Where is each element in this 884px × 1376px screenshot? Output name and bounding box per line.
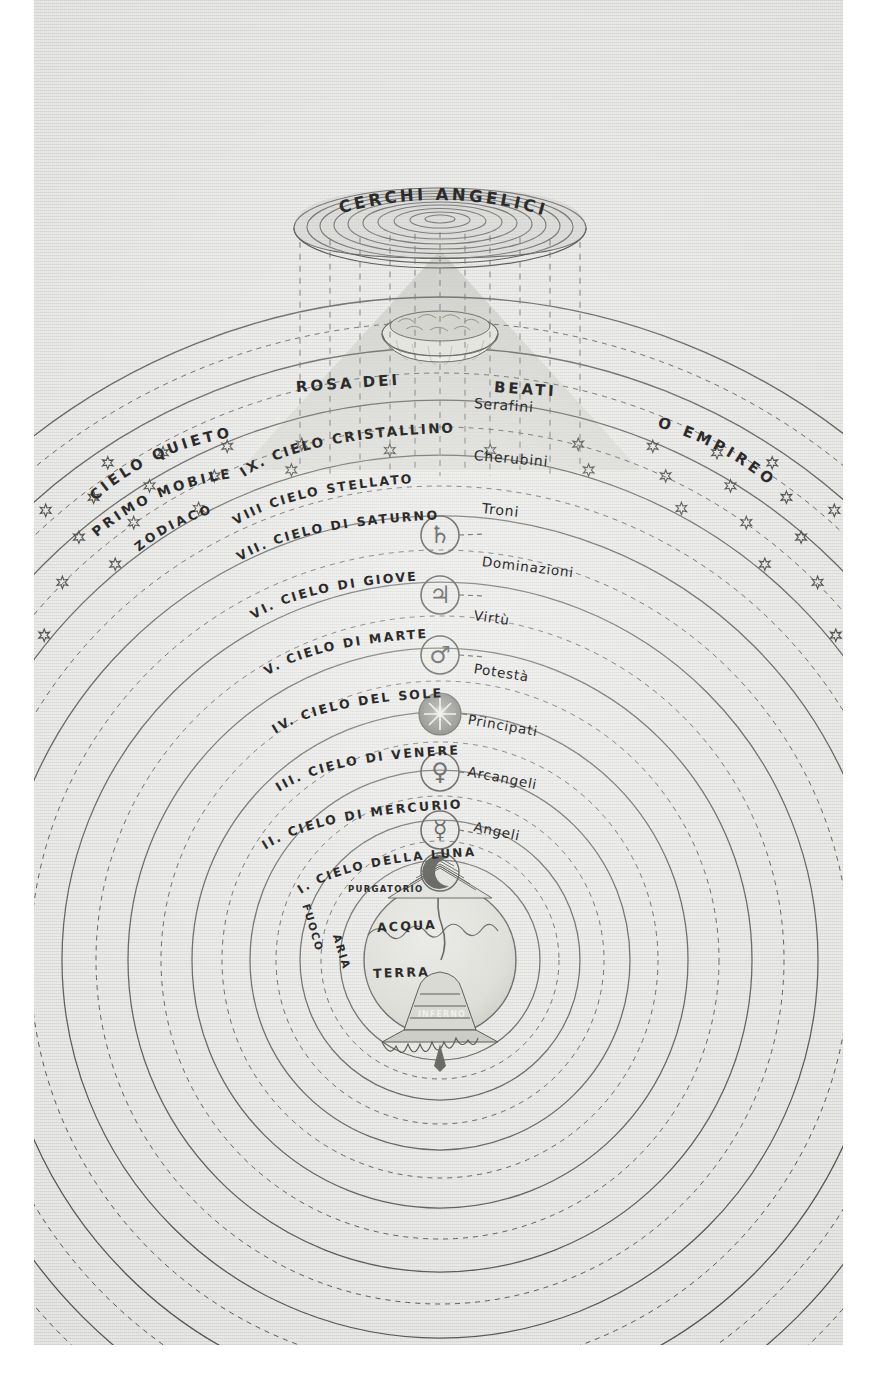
heaven-label-luna: I. CIELO DELLA LUNA — [294, 848, 480, 922]
heaven-label-text: I. CIELO DELLA LUNA — [295, 845, 477, 897]
heaven-label-text: IX. CIELO CRISTALLINO — [237, 419, 456, 479]
heaven-label-text: VII. CIELO DI SATURNO — [234, 507, 440, 564]
svg-text:V. CIELO DI MARTE: V. CIELO DI MARTE — [261, 626, 429, 678]
heaven-label-text: IV. CIELO DEL SOLE — [269, 685, 444, 736]
star-icon — [74, 531, 85, 543]
svg-text:IV. CIELO DEL SOLE: IV. CIELO DEL SOLE — [269, 685, 444, 736]
heaven-label-text: V. CIELO DI MARTE — [261, 626, 429, 678]
empireo-text: O EMPIREO — [656, 413, 780, 490]
svg-text:I. CIELO DELLA LUNA: I. CIELO DELLA LUNA — [295, 845, 477, 897]
star-icon — [796, 531, 807, 543]
empireo-label: O EMPIREO — [640, 418, 850, 532]
star-icon — [40, 504, 51, 516]
heaven-label-text: VI. CIELO DI GIOVE — [247, 568, 418, 622]
svg-text:III. CIELO DI VENERE: III. CIELO DI VENERE — [273, 742, 460, 794]
star-icon — [830, 629, 841, 641]
svg-text:O EMPIREO: O EMPIREO — [656, 413, 780, 490]
zodiaco-text: ZODIACO — [131, 501, 214, 554]
title-text: CERCHI ANGELICI — [337, 185, 550, 220]
svg-text:IX. CIELO CRISTALLINO: IX. CIELO CRISTALLINO — [237, 419, 456, 479]
star-icon — [39, 629, 50, 641]
svg-text:CERCHI ANGELICI: CERCHI ANGELICI — [337, 185, 550, 220]
diagram-canvas: ♄♃♂♀☿ CERCHI ANGELICI ROSA DEI BEATI O E… — [0, 0, 884, 1376]
svg-text:VII. CIELO DI SATURNO: VII. CIELO DI SATURNO — [234, 507, 440, 564]
svg-text:ZODIACO: ZODIACO — [131, 501, 214, 554]
star-icon — [812, 576, 823, 588]
star-icon — [57, 576, 68, 588]
heaven-label-text: III. CIELO DI VENERE — [273, 742, 460, 794]
heaven-label-text: II. CIELO DI MERCURIO — [259, 796, 463, 852]
svg-text:VI. CIELO DI GIOVE: VI. CIELO DI GIOVE — [247, 568, 418, 622]
star-icon — [759, 558, 770, 570]
svg-text:II. CIELO DI MERCURIO: II. CIELO DI MERCURIO — [259, 796, 463, 852]
cerchi-angelici-title: CERCHI ANGELICI — [277, 178, 607, 242]
